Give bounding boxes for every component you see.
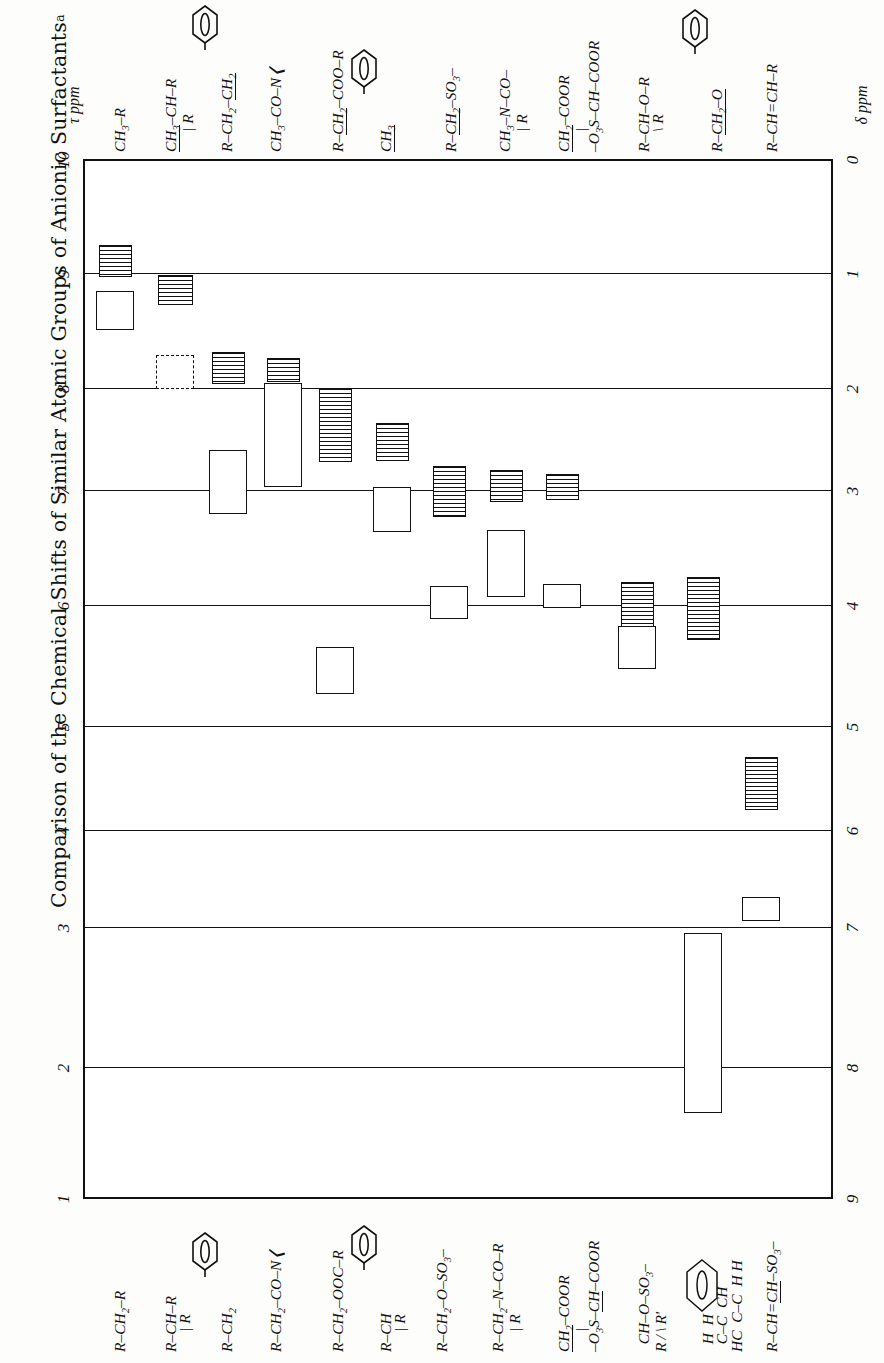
gridline-tau-3 [85,927,831,928]
bar-col7-a [433,466,466,517]
tick-left-6: 6 [54,591,74,621]
top-label-11: R–CH2–O [709,89,728,152]
bar-col6-b [373,487,411,532]
bottom-label-2: R–CH–R| R [163,1296,194,1352]
top-label-8: CH3–N–CO–| R [497,70,530,152]
top-label-5: R–CH2–COO–R [330,50,349,152]
bottom-label-4: R–CH2–CO–N❬ [268,1248,287,1352]
bar-col7-b [430,586,468,619]
bar-col12-b [742,897,780,921]
top-label-9: CH2–COOR|–O3S–CH–COOR [556,41,605,152]
bar-col4-a [267,358,300,382]
tick-left-1: 1 [54,1184,74,1214]
bar-col5-b [316,647,354,694]
tick-left-10: 10 [54,145,74,175]
bottom-label-12: R–CH=CH–SO3– [764,1242,783,1352]
top-label-4: CH3–CO–N❬ [268,65,287,152]
bar-col2-b [156,355,194,389]
benzene-ring-icon-top-3 [190,4,220,50]
right-axis-name: δ ppm [853,73,871,137]
gridline-tau-4 [85,830,831,831]
bottom-label-9: CH2–COOR|–O3S–CH–COOR [556,1241,605,1352]
tick-left-5: 5 [54,712,74,742]
benzene-ring-icon-bottom-3 [190,1231,220,1277]
bottom-label-6: R–CH| R [378,1313,409,1352]
top-label-6: CH3 [378,125,397,152]
bar-col9-b [543,584,581,608]
tick-left-4: 4 [54,816,74,846]
benzene-ring-icon-top-6 [349,48,379,94]
bar-col10-b [618,626,656,669]
tick-right-6: 6 [843,816,863,846]
bottom-label-5: R–CH2–OOC–R [330,1250,349,1352]
benzene-ring-icon-top-11 [680,8,710,54]
gridline-tau-9 [85,273,831,274]
bottom-label-1: R–CH2–R [112,1291,131,1352]
bar-col6-a [376,423,409,461]
tick-right-0: 0 [843,145,863,175]
page-title-footnote: a [52,14,67,22]
top-label-7: R–CH2–SO3– [443,68,462,152]
top-label-1: CH3–R [112,108,131,152]
benzene-ring-icon-bottom-11 [684,1258,720,1314]
plot-area [83,159,833,1199]
tick-left-7: 7 [54,476,74,506]
top-label-10: R–CH–O–R\ R [636,77,667,152]
bottom-label-3: R–CH2 [219,1308,238,1352]
bottom-label-7: R–CH2–O–SO3– [434,1249,453,1352]
bar-col8-a [490,470,523,502]
bar-col3-a [212,352,245,384]
benzene-ring-icon-bottom-6 [349,1224,379,1270]
bar-col10-a [621,582,654,628]
bar-col11-a [687,577,720,640]
left-axis-name: τ ppm [65,73,83,137]
bar-col1-b [96,291,134,330]
tick-left-3: 3 [54,913,74,943]
tick-right-4: 4 [843,591,863,621]
bar-col12-a [745,757,778,810]
tick-left-8: 8 [54,374,74,404]
tick-right-2: 2 [843,374,863,404]
tick-right-9: 9 [843,1184,863,1214]
bar-col8-b [487,530,525,597]
tick-right-5: 5 [843,712,863,742]
gridline-tau-8 [85,388,831,389]
top-label-12: R–CH=CH–R [764,64,780,152]
bar-col1-a [99,245,132,277]
bottom-label-8: R–CH2–N–CO–R| R [490,1243,523,1352]
tick-right-3: 3 [843,476,863,506]
tick-left-2: 2 [54,1053,74,1083]
top-label-3: R–CH2–CH2 [219,73,238,152]
gridline-tau-5 [85,726,831,727]
bar-col3-b [209,450,247,514]
bar-col5-a [319,388,352,462]
bottom-label-10: CH–O–SO3–R / \ R' [636,1264,669,1352]
tick-right-8: 8 [843,1053,863,1083]
bar-col4-b [264,383,302,487]
bar-col2-a [158,275,193,305]
bar-col11-b [684,933,722,1113]
tick-right-7: 7 [843,913,863,943]
bar-col9-a [546,474,579,500]
tick-right-1: 1 [843,259,863,289]
tick-left-9: 9 [54,259,74,289]
top-label-2: CH3–CH–R| R [163,79,196,152]
